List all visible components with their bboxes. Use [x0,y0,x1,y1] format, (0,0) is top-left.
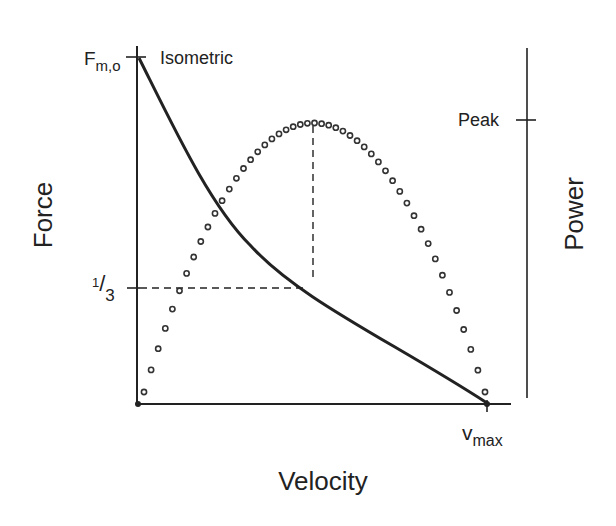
peak-label: Peak [458,110,500,130]
power-axis-label: Power [559,177,589,251]
force-curve [139,58,487,403]
force-axis-label: Force [28,182,58,248]
origin-dot [135,401,141,407]
third-label: 1/3 [92,271,115,305]
force-velocity-power-diagram: Force Power Velocity Fm,o Isometric Peak… [0,0,616,526]
vmax-label: vmax [462,421,503,449]
isometric-label: Isometric [160,48,233,68]
fmo-label: Fm,o [84,48,121,74]
velocity-axis-label: Velocity [278,466,368,496]
